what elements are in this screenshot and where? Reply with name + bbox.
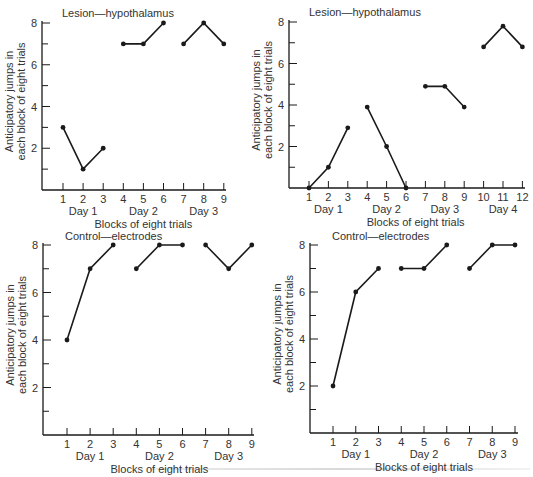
data-point [404,186,409,191]
x-tick-label: 1 [60,193,66,205]
data-point [141,41,146,46]
series-line-day-2 [401,245,447,269]
data-point [353,290,358,295]
data-point [101,146,106,151]
y-tick-label: 2 [299,380,305,392]
x-tick-label: 5 [156,438,162,450]
x-tick-label: 6 [444,436,450,448]
x-tick-label: 2 [353,436,359,448]
y-tick-label: 2 [32,382,38,394]
x-tick-label: 3 [110,438,116,450]
x-tick-label: 8 [489,436,495,448]
y-tick-label: 6 [299,286,305,298]
series-line-day-3 [425,86,464,107]
series-line-day-1 [333,269,379,387]
y-axis-title: Anticipatory jumps in [4,284,16,386]
data-point [490,243,495,248]
figure-canvas: Lesion—hypothalamus2468123456789Day 1Day… [0,0,533,477]
chart-lesion-hypothalamus-3-days: Lesion—hypothalamus2468123456789Day 1Day… [3,7,227,230]
series-line-day-4 [484,26,523,47]
x-tick-label: 2 [325,191,331,203]
y-tick-label: 4 [32,334,38,346]
data-point [331,384,336,389]
data-point [111,243,116,248]
y-tick-label: 2 [31,142,37,154]
day-label: Day 2 [145,450,174,462]
data-point [462,105,467,110]
figure-caption-cutoff [150,468,530,470]
x-tick-label: 6 [179,438,185,450]
data-point [513,243,518,248]
x-tick-label: 7 [466,436,472,448]
day-label: Day 1 [69,205,98,217]
series-line-day-3 [470,245,516,269]
x-tick-label: 8 [201,193,207,205]
y-tick-label: 8 [278,16,284,28]
data-point [326,165,331,170]
panel-title: Lesion—hypothalamus [62,7,174,19]
data-point [134,266,139,271]
y-tick-label: 6 [32,287,38,299]
x-tick-label: 12 [516,191,528,203]
day-label: Day 2 [129,205,158,217]
x-tick-label: 9 [249,438,255,450]
data-point [467,266,472,271]
y-tick-label: 8 [31,17,37,29]
series-line-day-2 [123,23,163,44]
x-tick-label: 5 [140,193,146,205]
series-line-day-1 [309,128,348,188]
y-tick-label: 2 [278,141,284,153]
data-point [181,41,186,46]
x-tick-label: 8 [226,438,232,450]
data-point [121,41,126,46]
data-point [399,266,404,271]
day-label: Day 3 [430,203,459,215]
y-tick-label: 8 [299,239,305,251]
y-tick-label: 8 [32,239,38,251]
chart-control-electrodes-a: Control—electrodes2468123456789Day 1Day … [4,230,255,475]
x-tick-label: 1 [330,436,336,448]
data-point [226,266,231,271]
x-tick-label: 4 [398,436,404,448]
x-tick-label: 9 [512,436,518,448]
x-tick-label: 3 [345,191,351,203]
data-point [520,45,525,50]
x-axis-title: Blocks of eight trials [367,216,465,228]
x-tick-label: 5 [421,436,427,448]
data-point [65,338,70,343]
day-label: Day 2 [372,203,401,215]
panel-title: Control—electrodes [65,230,163,242]
x-axis-title: Blocks of eight trials [375,461,473,473]
data-point [345,125,350,130]
data-point [201,21,206,26]
y-tick-label: 6 [278,58,284,70]
day-label: Day 2 [410,448,439,460]
x-tick-label: 7 [181,193,187,205]
data-point [203,243,208,248]
x-tick-label: 5 [384,191,390,203]
data-point [161,21,166,26]
x-tick-label: 7 [203,438,209,450]
x-tick-label: 4 [133,438,139,450]
data-point [61,125,66,130]
x-tick-label: 9 [461,191,467,203]
panel-title: Control—electrodes [332,230,430,242]
data-point [157,243,162,248]
data-point [81,167,86,172]
data-point [501,24,506,29]
day-label: Day 3 [478,448,507,460]
day-label: Day 1 [341,448,370,460]
y-tick-label: 6 [31,59,37,71]
x-axis-title: Blocks of eight trials [94,218,192,230]
day-label: Day 1 [76,450,105,462]
y-axis-title: each block of eight trials [16,275,28,394]
data-point [221,41,226,46]
data-point [442,84,447,89]
y-axis-title: each block of eight trials [262,40,274,159]
series-line-day-2 [136,245,182,269]
y-axis-title: each block of eight trials [283,274,295,393]
series-line-day-1 [63,127,103,169]
y-tick-label: 4 [31,101,37,113]
day-label: Day 4 [489,203,518,215]
series-line-day-1 [67,245,113,340]
